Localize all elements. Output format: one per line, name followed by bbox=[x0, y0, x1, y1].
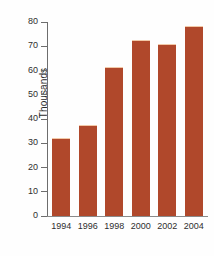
y-tick-mark bbox=[41, 191, 47, 192]
bar bbox=[185, 26, 203, 216]
y-tick-label: 10 bbox=[16, 187, 38, 196]
y-tick-label: 0 bbox=[16, 211, 38, 220]
y-tick-label: 70 bbox=[16, 41, 38, 50]
y-tick-mark bbox=[41, 216, 47, 217]
bar bbox=[132, 40, 150, 216]
y-tick-label: 30 bbox=[16, 138, 38, 147]
y-tick-label: 20 bbox=[16, 163, 38, 172]
y-tick-mark bbox=[41, 167, 47, 168]
x-tick-label: 2004 bbox=[179, 221, 209, 231]
y-tick-label: 80 bbox=[16, 17, 38, 26]
y-tick-mark bbox=[41, 46, 47, 47]
bar bbox=[52, 138, 70, 216]
y-tick-label: 60 bbox=[16, 66, 38, 75]
y-axis-line bbox=[47, 22, 48, 217]
x-tick-label: 1994 bbox=[46, 221, 76, 231]
x-tick-label: 2002 bbox=[152, 221, 182, 231]
x-tick-label: 1998 bbox=[99, 221, 129, 231]
bar bbox=[158, 44, 176, 216]
y-axis-title: Thousands bbox=[38, 53, 52, 133]
bar-chart: Thousands 80706050403020100 199419961998… bbox=[0, 0, 214, 256]
y-tick-mark bbox=[41, 70, 47, 71]
x-tick-label: 2000 bbox=[126, 221, 156, 231]
y-tick-mark bbox=[41, 143, 47, 144]
y-tick-mark bbox=[41, 94, 47, 95]
y-tick-mark bbox=[41, 119, 47, 120]
y-tick-label: 40 bbox=[16, 114, 38, 123]
x-tick-label: 1996 bbox=[73, 221, 103, 231]
y-tick-label: 50 bbox=[16, 90, 38, 99]
bar bbox=[105, 67, 123, 216]
bar bbox=[79, 125, 97, 216]
x-axis-line bbox=[47, 216, 208, 217]
y-tick-mark bbox=[41, 22, 47, 23]
